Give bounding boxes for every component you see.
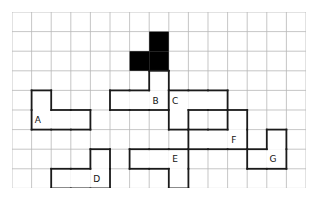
grid-area: ABCDEFG — [12, 12, 306, 188]
shape-label-c: C — [172, 96, 178, 105]
shape-label-d: D — [93, 174, 100, 183]
shape-label-e: E — [172, 155, 178, 164]
shape-label-g: G — [270, 155, 277, 164]
shape-label-f: F — [231, 135, 236, 144]
shape-label-b: B — [152, 96, 158, 105]
puzzle-canvas: ABCDEFG — [0, 0, 318, 199]
shape-label-a: A — [35, 116, 41, 125]
shape-label-layer: ABCDEFG — [12, 12, 306, 188]
